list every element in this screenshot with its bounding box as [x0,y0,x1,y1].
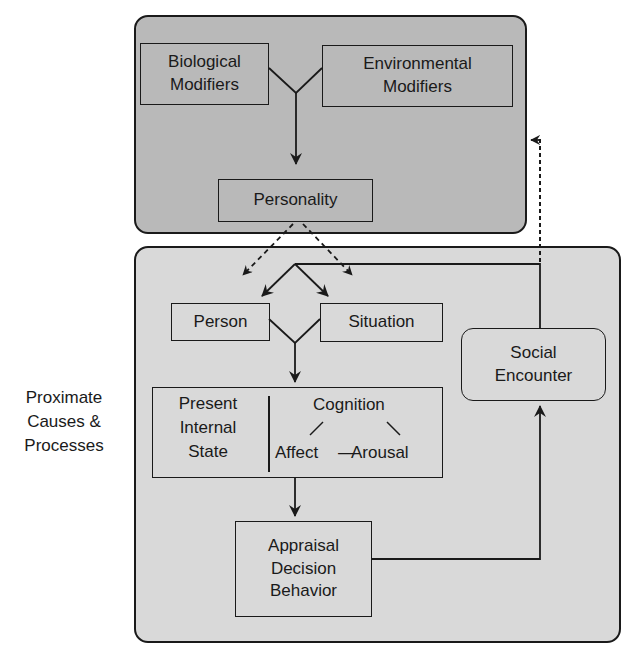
person-node: Person [171,303,270,341]
person-label: Person [194,311,248,334]
biological-modifiers-label: Biological Modifiers [168,51,241,97]
arousal-label: Arousal [351,442,409,465]
social-encounter-node: Social Encounter [461,328,606,401]
personality-label: Personality [253,189,337,212]
environmental-modifiers-label: Environmental Modifiers [363,53,472,99]
environmental-modifiers-node: Environmental Modifiers [322,45,513,107]
personality-node: Personality [218,179,373,222]
present-internal-state-label: Present Internal State [153,392,263,463]
pis-divider [268,396,270,472]
present-internal-state-node: Present Internal State Cognition Affect … [152,387,443,478]
affect-label: Affect [275,442,318,465]
situation-label: Situation [348,311,414,334]
social-encounter-label: Social Encounter [495,342,573,388]
cognition-label: Cognition [313,394,385,417]
social-encounter-to-distal-dashed-line [531,140,540,262]
appraisal-decision-behavior-label: Appraisal Decision Behavior [268,535,339,604]
biological-modifiers-node: Biological Modifiers [140,43,269,105]
proximate-causes-label: Proximate Causes & Processes [6,386,122,457]
appraisal-decision-behavior-node: Appraisal Decision Behavior [235,521,372,617]
situation-node: Situation [320,303,443,342]
